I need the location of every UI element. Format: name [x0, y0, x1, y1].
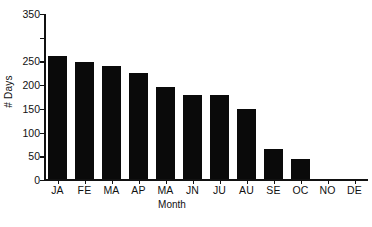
x-axis-title: Month: [44, 199, 368, 210]
y-tick-mark: [40, 180, 44, 181]
y-tick-label: 100: [22, 127, 40, 139]
x-tick-label: JN: [186, 184, 199, 196]
bar-ju-6: [210, 95, 229, 179]
bar-jn-5: [183, 95, 202, 179]
x-axis-title-text: Month: [158, 199, 186, 210]
x-tick-label: DE: [347, 184, 362, 196]
y-tick-label: 50: [28, 150, 40, 162]
x-tick-label: FE: [78, 184, 92, 196]
bar-ma-4: [156, 87, 175, 179]
y-tick-mark: [40, 38, 44, 39]
x-tick-label: OC: [292, 184, 308, 196]
bar-au-7: [237, 109, 256, 179]
x-tick-label: MA: [103, 184, 119, 196]
y-axis-title-text: # Days: [3, 75, 14, 107]
bar-ja-0: [48, 56, 67, 179]
y-tick-mark: [40, 14, 44, 15]
bar-ma-2: [102, 66, 121, 179]
y-tick-mark: [40, 61, 44, 62]
x-tick-label: JU: [213, 184, 226, 196]
x-tick-label: AP: [131, 184, 145, 196]
x-tick-label: AU: [239, 184, 254, 196]
y-tick-mark: [40, 85, 44, 86]
y-tick-mark: [40, 133, 44, 134]
bar-chart-figure: # Days 050100150200250350 JAFEMAAPMAJNJU…: [0, 0, 372, 227]
x-tick-label: JA: [51, 184, 64, 196]
y-tick-mark: [40, 156, 44, 157]
x-axis-tick-labels: JAFEMAAPMAJNJUAUSEOCNODE: [44, 184, 368, 198]
y-axis-tick-labels: 050100150200250350: [14, 0, 40, 182]
y-tick-label: 150: [22, 103, 40, 115]
x-tick-label: NO: [319, 184, 335, 196]
bar-se-8: [264, 149, 283, 179]
bar-oc-9: [291, 159, 310, 179]
y-axis-spine: [44, 14, 46, 180]
y-tick-label: 200: [22, 79, 40, 91]
y-tick-mark: [40, 109, 44, 110]
bar-fe-1: [75, 62, 94, 179]
plot-area: [44, 14, 368, 180]
y-tick-label: 250: [22, 55, 40, 67]
y-tick-label: 350: [22, 8, 40, 20]
bar-ap-3: [129, 73, 148, 179]
x-tick-label: SE: [266, 184, 280, 196]
x-axis-spine: [44, 179, 368, 181]
x-tick-label: MA: [157, 184, 173, 196]
